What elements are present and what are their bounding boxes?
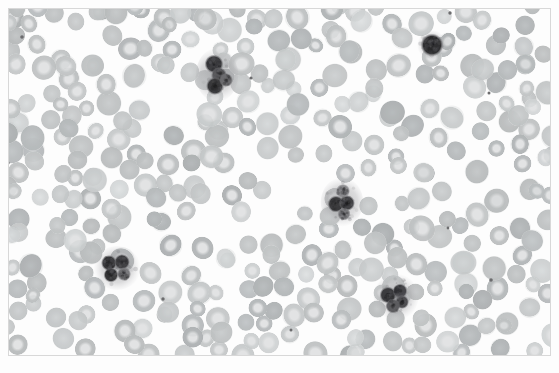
blood-smear-canvas [9, 9, 550, 355]
blood-smear-field [9, 9, 550, 355]
micrograph-stage [0, 0, 559, 373]
image-frame [8, 8, 551, 356]
